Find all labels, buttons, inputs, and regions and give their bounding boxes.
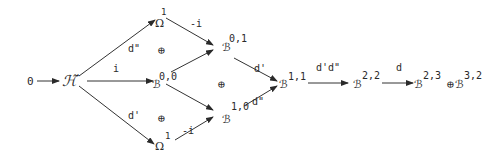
- arrow-H-to-omega-bottom: [79, 86, 154, 144]
- node-B32: ℬ: [455, 78, 464, 91]
- node-omega-bottom: Ω: [155, 140, 164, 153]
- node-B11-sup: 1,1: [288, 71, 306, 82]
- label-d-double-prime-top: d": [128, 43, 140, 54]
- label-d-prime-right: d': [254, 63, 266, 74]
- node-B11: ℬ: [279, 78, 288, 91]
- arrow-B00-to-B10: [166, 84, 213, 110]
- direct-sum-middle: ⊕: [217, 79, 225, 90]
- node-omega-top: Ω: [155, 17, 164, 30]
- node-B10: ℬ: [222, 113, 231, 126]
- label-d-double-prime-right: d": [252, 96, 264, 107]
- node-H-tilde: ℋ̃: [62, 72, 79, 90]
- node-omega-top-sup: 1: [161, 7, 166, 17]
- node-B00-sup: 0,0: [159, 71, 177, 82]
- label-d-prime-left: d': [128, 110, 140, 121]
- node-B01-sup: 0,1: [229, 33, 247, 44]
- node-B32-sup: 3,2: [464, 70, 482, 81]
- node-zero: 0: [27, 75, 34, 88]
- arrow-B00-to-B01: [171, 50, 213, 72]
- direct-sum-left-bottom: ⊕: [157, 113, 165, 124]
- direct-sum-left-top: ⊕: [157, 45, 165, 56]
- label-i: i: [113, 63, 119, 74]
- node-B23-sup: 2,3: [423, 70, 441, 81]
- node-B22: ℬ: [353, 78, 362, 91]
- direct-sum-final: ⊕: [446, 79, 454, 90]
- node-omega-bottom-sup: 1: [165, 131, 170, 141]
- label-minus-i-bottom: -i: [182, 125, 194, 136]
- label-d: d: [396, 62, 402, 73]
- node-B10-sup: 1,0: [231, 101, 249, 112]
- diagram-canvas: 0 ℋ̃ d" i d' Ω 1 ⊕ ℬ 0,0 ⊕ Ω 1 -i -i ℬ 0…: [0, 0, 502, 161]
- label-d-prime-d-double-prime: d'd": [316, 62, 340, 73]
- node-B22-sup: 2,2: [362, 70, 380, 81]
- label-minus-i-top: -i: [190, 18, 202, 29]
- node-B23: ℬ: [414, 78, 423, 91]
